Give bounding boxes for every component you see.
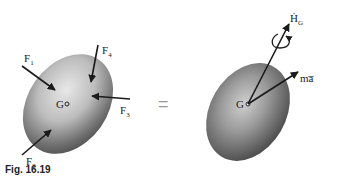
effective-force-label: ma̅	[300, 72, 314, 84]
angular-momentum-rate-label: ḢG	[290, 12, 303, 27]
left-free-body: G F1 F2 F3 F4	[4, 37, 131, 171]
force-f4-label: F4	[102, 44, 112, 59]
rigid-body-figure: G F1 F2 F3 F4 = G ḢG ma̅	[0, 0, 341, 184]
right-center-label: G	[236, 98, 244, 110]
right-kinetic-diagram: G ḢG ma̅	[189, 12, 314, 176]
right-body-shape	[189, 48, 307, 176]
equals-sign: =	[158, 94, 169, 114]
left-center-label: G	[56, 98, 64, 110]
figure-caption: Fig. 16.19	[5, 164, 51, 175]
force-f3-label: F3	[120, 104, 130, 119]
force-f1-label: F1	[24, 52, 34, 67]
